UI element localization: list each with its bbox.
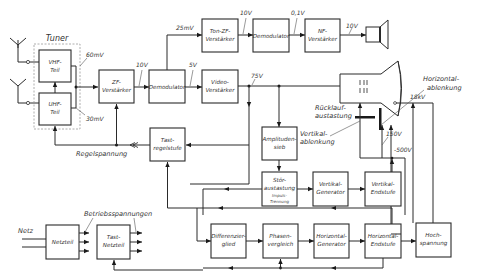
svg-text:Ton-ZF-: Ton-ZF- (210, 28, 230, 34)
voltage-minus-500v: -500V (394, 146, 413, 153)
svg-text:Endstufe: Endstufe (371, 189, 396, 195)
svg-text:Video-: Video- (211, 79, 229, 85)
vhf-antenna-icon (10, 38, 39, 64)
svg-text:Demodulator: Demodulator (149, 84, 186, 90)
svg-text:NF-: NF- (318, 28, 327, 34)
tv-receiver-block-diagram: Tuner VHF- Teil UHF- Teil 60mV 30mV ZF- … (0, 0, 488, 279)
block-uhf-teil: UHF- Teil (39, 93, 71, 125)
crt-picture-tube-icon (340, 61, 402, 116)
block-differenzier-glied: Differenzier- glied (211, 224, 246, 258)
block-demodulator-video: Demodulator (149, 70, 186, 103)
svg-text:Vertikal-: Vertikal- (371, 181, 394, 187)
block-nf-verstaerker: NF- Verstärker (305, 19, 340, 52)
svg-text:regelstufe: regelstufe (153, 145, 182, 152)
svg-text:sieb: sieb (274, 144, 286, 150)
svg-text:ablenkung: ablenkung (427, 84, 462, 92)
block-stoer-austastung: Stör- austastung Impuls- Trennung (262, 172, 297, 206)
svg-text:Demodulator: Demodulator (253, 33, 290, 39)
voltage-25mv: 25mV (176, 24, 194, 31)
svg-text:ablenkung: ablenkung (300, 138, 335, 146)
svg-text:glied: glied (222, 241, 236, 248)
label-netz: Netz (18, 227, 34, 235)
block-hochspannung: Hoch- spannung (416, 223, 451, 257)
label-betriebsspannungen: Betriebsspannungen (84, 210, 152, 218)
block-phasen-vergleich: Phasen- vergleich (263, 224, 298, 258)
vertical-deflection-coil-icon (355, 116, 375, 119)
block-video-verstaerker: Video- Verstärker (202, 70, 238, 103)
svg-text:Verstärker: Verstärker (205, 87, 235, 93)
svg-text:UHF-: UHF- (48, 101, 61, 107)
svg-text:Impuls-: Impuls- (272, 193, 287, 198)
voltage-75v: 75V (251, 72, 264, 79)
block-horizontal-generator: Horizontal- Generator (314, 224, 349, 258)
block-amplitudensieb: Amplituden- sieb (261, 127, 297, 160)
svg-text:Generator: Generator (316, 189, 345, 195)
svg-text:ZF-: ZF- (111, 79, 121, 85)
svg-text:Stör-: Stör- (273, 177, 286, 183)
voltage-60mv: 60mV (86, 51, 104, 58)
label-regelspannung: Regelspannung (76, 150, 127, 158)
voltage-10v-nf: 10V (346, 22, 359, 29)
label-ruecklauf-austastung: Rücklauf- (315, 104, 346, 112)
block-zf-verstaerker: ZF- Verstärker (99, 70, 134, 103)
svg-text:vergleich: vergleich (268, 241, 294, 248)
block-tast-netzteil: Tast- Netzteil (97, 225, 130, 259)
block-horizontal-endstufe: Horizontal- Endstufe (365, 224, 401, 258)
voltage-30mv: 30mV (86, 115, 104, 122)
uhf-antenna-icon (10, 79, 39, 105)
voltage-10v-ton: 10V (240, 9, 253, 16)
block-vhf-teil: VHF- Teil (39, 50, 71, 82)
svg-text:Horizontal-: Horizontal- (316, 233, 347, 239)
block-netzteil: Netzteil (46, 225, 79, 259)
svg-text:Phasen-: Phasen- (269, 233, 291, 239)
svg-text:Tast-: Tast- (107, 234, 120, 240)
svg-text:Hoch-: Hoch- (425, 232, 441, 238)
voltage-5v: 5V (189, 61, 198, 68)
svg-text:Teil: Teil (50, 67, 60, 73)
voltage-150v: 150V (386, 130, 402, 137)
tuner-label: Tuner (46, 34, 69, 43)
speaker-icon (366, 20, 388, 49)
block-tast-regelstufe: Tast- regelstufe (150, 128, 185, 161)
svg-text:Vertikal-: Vertikal- (319, 181, 342, 187)
block-ton-zf-verstaerker: Ton-ZF- Verstärker (202, 19, 238, 52)
svg-text:Verstärker: Verstärker (102, 87, 132, 93)
svg-text:Tast-: Tast- (161, 137, 174, 143)
svg-text:Netzteil: Netzteil (52, 239, 74, 245)
label-vertikal-ablenkung: Vertikal- (300, 130, 328, 138)
svg-text:Verstärker: Verstärker (308, 36, 338, 42)
voltage-0-1v: 0,1V (291, 9, 306, 16)
svg-text:Amplituden-: Amplituden- (261, 136, 296, 143)
block-vertikal-endstufe: Vertikal- Endstufe (365, 172, 401, 206)
horizontal-deflection-coil-icon (379, 108, 382, 130)
svg-text:austastung: austastung (315, 112, 352, 120)
svg-text:Teil: Teil (50, 109, 60, 115)
svg-text:VHF-: VHF- (49, 59, 62, 65)
block-vertikal-generator: Vertikal- Generator (313, 172, 348, 206)
svg-text:Differenzier-: Differenzier- (211, 233, 246, 239)
svg-text:spannung: spannung (420, 240, 448, 247)
svg-text:austastung: austastung (264, 185, 296, 192)
voltage-18kv: 18kV (410, 93, 426, 100)
voltage-10v-zf: 10V (136, 61, 149, 68)
block-demodulator-audio: Demodulator (253, 19, 290, 52)
svg-text:Verstärker: Verstärker (205, 36, 235, 42)
label-horizontal-ablenkung: Horizontal- (423, 75, 460, 83)
svg-text:Netzteil: Netzteil (103, 242, 125, 248)
svg-text:Endstufe: Endstufe (371, 241, 396, 247)
svg-text:Generator: Generator (317, 241, 346, 247)
svg-text:Trennung: Trennung (270, 199, 289, 204)
